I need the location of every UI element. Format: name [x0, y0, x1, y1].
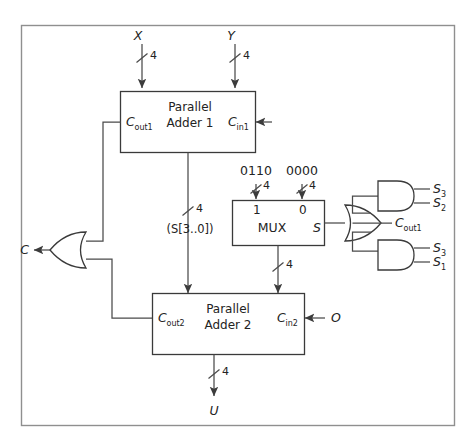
and-top-in2-base: S — [433, 195, 441, 210]
bus-width-u: 4 — [222, 365, 229, 378]
bus-width-const-0110: 4 — [263, 179, 270, 192]
label-output-c: C — [20, 242, 29, 257]
label-cin2-source: O — [331, 310, 341, 325]
mux-input-sel-1: 1 — [253, 203, 261, 217]
or-cout1-sub: out1 — [404, 224, 422, 233]
adder2-cout2-sub: out2 — [167, 319, 185, 328]
adder1-title-line2: Adder 1 — [167, 116, 214, 130]
label-output-u: U — [209, 403, 218, 418]
mux-label: MUX — [258, 220, 287, 235]
and-top-in1-sub: 3 — [441, 190, 446, 199]
bus-width-const-0000: 4 — [309, 179, 316, 192]
adder1-cin1-sub: in1 — [237, 123, 249, 132]
and-bot-in2-base: S — [433, 254, 441, 269]
bus-width-sum1: 4 — [196, 202, 203, 215]
figure-canvas: X 4 Y 4 Parallel Adder 1 C out1 C in1 4 … — [0, 0, 476, 445]
adder2-title-line1: Parallel — [206, 302, 250, 316]
and-gate-top-body — [378, 181, 414, 211]
and-gate-bottom-body — [378, 240, 414, 270]
label-input-x: X — [133, 28, 143, 43]
and-bot-in1-base: S — [433, 240, 441, 255]
and-top-in1-base: S — [433, 181, 441, 196]
and-bot-in1-sub: 3 — [441, 249, 446, 258]
and-top-in2-sub: 2 — [441, 204, 446, 213]
and-bot-in2-sub: 1 — [441, 263, 446, 272]
adder1-title-line1: Parallel — [168, 100, 212, 114]
adder2-title-line2: Adder 2 — [205, 318, 252, 332]
mux-output-s: S — [313, 220, 321, 235]
label-const-0110: 0110 — [240, 163, 272, 178]
bus-width-y: 4 — [243, 49, 250, 62]
adder1-cout1-sub: out1 — [135, 123, 153, 132]
bus-width-x: 4 — [150, 49, 157, 62]
mux-input-sel-0: 0 — [299, 203, 307, 217]
label-const-0000: 0000 — [286, 163, 318, 178]
label-sum-bus: (S[3..0]) — [166, 222, 213, 236]
bus-width-mux-out: 4 — [286, 258, 293, 271]
adder2-cin2-sub: in2 — [286, 319, 298, 328]
